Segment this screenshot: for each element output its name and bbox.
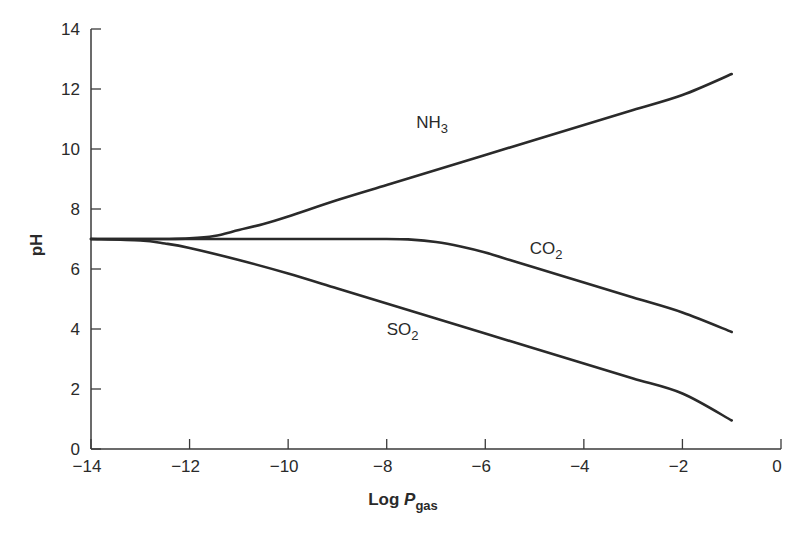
x-tick-label: −8 <box>373 457 392 476</box>
y-tick-label: 2 <box>71 380 80 399</box>
label-so2: SO2 <box>387 320 419 343</box>
x-tick-label: −4 <box>570 457 589 476</box>
y-tick-label: 4 <box>71 320 80 339</box>
x-tick-label: −14 <box>73 457 102 476</box>
label-nh3: NH3 <box>416 113 448 136</box>
x-tick-label: 0 <box>772 457 781 476</box>
x-axis-title: Log Pgas <box>368 490 438 513</box>
chart-canvas: 02468101214−14−12−10−8−6−4−20 NH3CO2SO2 … <box>0 0 809 537</box>
x-tick-label: −12 <box>171 457 200 476</box>
x-tick-label: −2 <box>669 457 688 476</box>
y-tick-label: 14 <box>61 20 80 39</box>
axes: 02468101214−14−12−10−8−6−4−20 <box>61 20 782 476</box>
y-tick-label: 10 <box>61 140 80 159</box>
x-tick-label: −10 <box>270 457 299 476</box>
curve-nh3 <box>91 74 732 239</box>
y-tick-label: 8 <box>71 200 80 219</box>
y-tick-label: 12 <box>61 80 80 99</box>
y-tick-label: 6 <box>71 260 80 279</box>
curve-co2 <box>91 239 732 332</box>
x-tick-label: −6 <box>472 457 491 476</box>
curve-labels: NH3CO2SO2 <box>387 113 563 343</box>
label-co2: CO2 <box>530 239 563 262</box>
curves <box>91 74 732 421</box>
y-axis-title: pH <box>27 234 46 257</box>
